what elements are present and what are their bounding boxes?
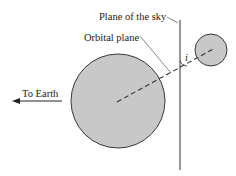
sky-plane-leader (167, 17, 178, 23)
arrow-left-icon (12, 98, 20, 104)
binary-orbit-inclination-diagram: Plane of the sky Orbital plane To Earth … (0, 0, 236, 176)
inclination-label: i (185, 52, 188, 63)
orbital-plane-label: Orbital plane (84, 32, 139, 43)
plane-of-sky-label: Plane of the sky (99, 11, 167, 22)
to-earth-label: To Earth (22, 88, 59, 99)
